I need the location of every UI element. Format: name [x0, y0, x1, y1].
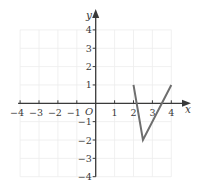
x-tick-label: 4: [168, 107, 174, 118]
y-tick-label: −1: [78, 116, 92, 127]
x-tick-label: 1: [112, 107, 118, 118]
axes: [18, 9, 191, 177]
y-tick-label: 3: [86, 43, 92, 54]
x-axis-label: x: [185, 103, 191, 115]
y-tick-label: −2: [78, 135, 92, 146]
y-tick-label: −3: [78, 153, 92, 164]
x-tick-label: −4: [10, 107, 24, 118]
y-tick-label: 4: [86, 24, 92, 35]
origin-label: O: [85, 106, 93, 117]
y-axis-label: y: [85, 9, 93, 21]
x-tick-label: −2: [48, 107, 62, 118]
y-axis-arrow-icon: [92, 9, 99, 18]
x-tick-label: −3: [29, 107, 43, 118]
y-tick-label: 1: [86, 79, 92, 90]
x-tick-label: 2: [130, 107, 136, 118]
coordinate-plane: −4−3−2−112344321−1−2−3−4 x y O: [0, 0, 199, 186]
y-tick-label: −4: [78, 171, 92, 182]
y-tick-label: 2: [86, 61, 92, 72]
